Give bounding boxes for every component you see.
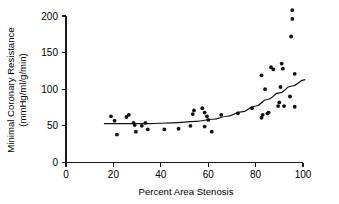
data-point (134, 130, 138, 134)
y-axis-title-line2: (mmHg/ml/g/min) (17, 53, 28, 127)
data-point (206, 118, 210, 122)
data-point (279, 85, 283, 89)
data-point (289, 35, 293, 39)
data-points (109, 8, 296, 136)
data-point (133, 123, 137, 127)
data-point (281, 67, 285, 71)
data-point (293, 72, 297, 76)
data-point (250, 106, 254, 110)
data-point (271, 68, 275, 72)
data-point (191, 112, 195, 116)
y-tick-label-0: 0 (52, 157, 58, 168)
data-point (192, 109, 196, 113)
y-tick-label-50: 50 (47, 120, 59, 131)
data-point (200, 106, 204, 110)
fit-curve (104, 80, 305, 124)
x-axis-group: 0 20 40 60 80 100 (63, 163, 312, 181)
chart-figure: 200 150 100 50 0 0 20 40 60 80 100 Perce… (0, 0, 339, 204)
data-point (290, 8, 294, 12)
x-tick-label-40: 40 (155, 169, 167, 180)
data-point (276, 104, 280, 108)
x-axis-title: Percent Area Stenosis (139, 186, 234, 197)
data-point (280, 62, 284, 66)
data-point (290, 17, 294, 21)
data-point (219, 113, 223, 117)
data-point (127, 113, 131, 117)
data-point (210, 130, 214, 134)
x-tick-label-60: 60 (203, 169, 215, 180)
x-tick-label-20: 20 (108, 169, 120, 180)
data-point (109, 114, 113, 118)
x-tick-label-80: 80 (250, 169, 262, 180)
data-point (203, 111, 207, 115)
data-point (282, 104, 286, 108)
data-point (263, 87, 267, 91)
y-axis-group: 200 150 100 50 0 (41, 11, 66, 168)
data-point (288, 95, 292, 99)
data-point (162, 128, 166, 132)
y-axis-title-line1: Minimal Coronary Resistance (5, 27, 16, 152)
scatter-plot: 200 150 100 50 0 0 20 40 60 80 100 Perce… (0, 0, 339, 204)
data-point (293, 105, 297, 109)
data-point (115, 133, 119, 137)
data-point (205, 114, 209, 118)
data-point (267, 111, 271, 115)
data-point (140, 124, 144, 128)
data-point (144, 121, 148, 125)
data-point (277, 100, 281, 104)
data-point (260, 73, 264, 77)
data-point (177, 127, 181, 131)
y-tick-label-100: 100 (41, 84, 58, 95)
data-point (203, 125, 207, 129)
y-tick-label-150: 150 (41, 47, 58, 58)
data-point (236, 111, 240, 115)
data-point (113, 119, 117, 123)
x-tick-label-100: 100 (295, 169, 312, 180)
data-point (146, 128, 150, 132)
x-tick-label-0: 0 (63, 169, 69, 180)
data-point (189, 124, 193, 128)
data-point (261, 113, 265, 117)
y-tick-label-200: 200 (41, 11, 58, 22)
